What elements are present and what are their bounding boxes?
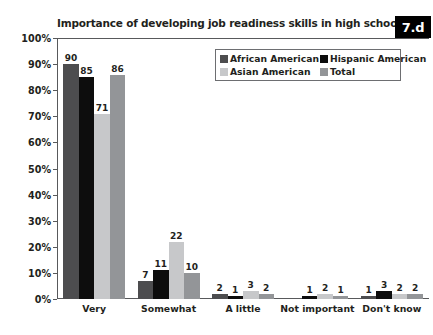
- y-axis-tick-label: 100%: [5, 33, 51, 44]
- bar-value-label: 1: [365, 285, 371, 295]
- x-axis-category-label: Not important: [280, 303, 354, 314]
- bar-value-label: 7: [142, 270, 148, 280]
- figure-number-badge: 7.d: [395, 16, 431, 38]
- bar-value-label: 11: [155, 259, 168, 269]
- chart-legend: African AmericanHispanic AmericanAsian A…: [215, 49, 401, 81]
- y-axis-tick-mark: [53, 247, 57, 248]
- y-axis-tick-mark: [53, 221, 57, 222]
- y-axis-tick-mark: [53, 273, 57, 274]
- bar-value-label: 90: [65, 53, 78, 63]
- bar: 11: [153, 270, 169, 299]
- bar-value-label: 22: [170, 231, 183, 241]
- y-axis-tick-mark: [53, 299, 57, 300]
- y-axis-tick-mark: [53, 169, 57, 170]
- bar: 90: [63, 64, 79, 299]
- y-axis-tick-mark: [53, 64, 57, 65]
- y-axis-tick-mark: [53, 38, 57, 39]
- legend-swatch: [320, 68, 328, 76]
- y-axis-tick-mark: [53, 142, 57, 143]
- bar: 3: [243, 291, 259, 299]
- y-axis-tick-label: 80%: [5, 85, 51, 96]
- legend-entry: African American: [220, 53, 320, 64]
- bar: 1: [228, 296, 244, 299]
- y-axis-tick-label: 70%: [5, 111, 51, 122]
- legend-swatch: [220, 68, 228, 76]
- bar-group: 7112210: [138, 38, 200, 299]
- bar-value-label: 2: [217, 283, 223, 293]
- bar-value-label: 1: [338, 285, 344, 295]
- legend-entry: Total: [320, 66, 406, 77]
- y-axis-tick-mark: [53, 90, 57, 91]
- y-axis-tick-label: 60%: [5, 137, 51, 148]
- bar: 22: [169, 242, 185, 299]
- legend-label: Hispanic American: [330, 53, 426, 64]
- y-axis-tick-label: 20%: [5, 241, 51, 252]
- bar-value-label: 2: [412, 283, 418, 293]
- y-axis-tick-mark: [53, 116, 57, 117]
- bar-value-label: 86: [111, 64, 124, 74]
- bar-value-label: 3: [381, 280, 387, 290]
- bar: 1: [302, 296, 318, 299]
- bar: 7: [138, 281, 154, 299]
- y-axis-tick-label: 90%: [5, 59, 51, 70]
- bar-value-label: 1: [307, 285, 313, 295]
- chart-figure: Importance of developing job readiness s…: [0, 0, 433, 335]
- y-axis-tick-label: 10%: [5, 267, 51, 278]
- bar-value-label: 85: [80, 66, 93, 76]
- y-axis-tick-mark: [53, 195, 57, 196]
- bar: 1: [333, 296, 349, 299]
- legend-entry: Asian American: [220, 66, 320, 77]
- bar: 2: [407, 294, 423, 299]
- bar-value-label: 10: [186, 262, 199, 272]
- bar: 85: [79, 77, 95, 299]
- legend-entry: Hispanic American: [320, 53, 406, 64]
- bar-value-label: 2: [322, 283, 328, 293]
- bar: 86: [110, 75, 126, 299]
- legend-label: Asian American: [230, 66, 310, 77]
- y-axis-tick-label: 40%: [5, 189, 51, 200]
- bar-value-label: 1: [232, 285, 238, 295]
- bar-value-label: 2: [263, 283, 269, 293]
- y-axis-tick-label: 50%: [5, 163, 51, 174]
- legend-label: African American: [230, 53, 319, 64]
- bar: 2: [259, 294, 275, 299]
- bar-value-label: 71: [96, 103, 109, 113]
- bar: 1: [361, 296, 377, 299]
- bar: 3: [376, 291, 392, 299]
- x-axis-category-label: Don't know: [362, 303, 421, 314]
- legend-label: Total: [330, 66, 355, 77]
- y-axis-tick-label: 30%: [5, 215, 51, 226]
- y-axis-tick-label: 0%: [5, 294, 51, 305]
- bar-group: 90857186: [63, 38, 125, 299]
- bar: 10: [184, 273, 200, 299]
- legend-swatch: [220, 55, 228, 63]
- bar: 71: [94, 114, 110, 299]
- x-axis-category-label: Somewhat: [141, 303, 196, 314]
- bar-value-label: 2: [396, 283, 402, 293]
- bar-value-label: 3: [248, 280, 254, 290]
- chart-title: Importance of developing job readiness s…: [57, 17, 406, 29]
- x-axis-category-label: A little: [225, 303, 260, 314]
- legend-swatch: [320, 55, 328, 63]
- bar: 2: [212, 294, 228, 299]
- x-axis-category-label: Very: [82, 303, 106, 314]
- bar: 2: [392, 294, 408, 299]
- bar: 2: [317, 294, 333, 299]
